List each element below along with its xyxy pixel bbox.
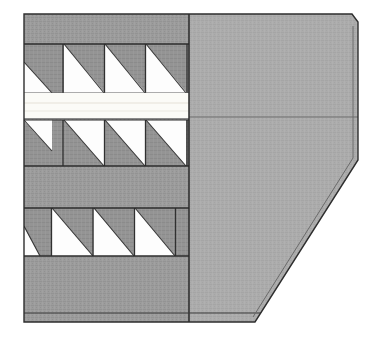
tooth-band-middle [23, 120, 189, 166]
inter-band-gap [24, 93, 189, 119]
tooth-bands-group [23, 44, 189, 256]
tooth-band-lower [23, 208, 189, 256]
drawing-svg [0, 0, 378, 338]
tooth-band-upper [23, 44, 189, 93]
technical-drawing-canvas: Sectional Technical Drawing [0, 0, 378, 338]
